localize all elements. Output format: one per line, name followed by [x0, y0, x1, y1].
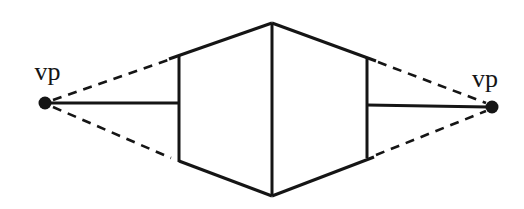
- horizon-line-right: [367, 105, 488, 107]
- box-bottom-right-edge: [272, 157, 374, 196]
- vp-right-label: vp: [472, 64, 498, 93]
- box-top-right-edge: [272, 23, 376, 61]
- guide-right-bottom: [376, 111, 486, 155]
- guide-right-top: [378, 62, 486, 103]
- box-bottom-left-edge: [179, 161, 272, 196]
- vp-right-dot: [486, 101, 499, 114]
- figure-two-point-perspective: vpvp: [0, 0, 524, 209]
- guide-left-bottom: [53, 107, 171, 158]
- vp-left-dot: [39, 97, 52, 110]
- guide-left-top: [53, 58, 174, 100]
- vp-left-label: vp: [35, 57, 61, 86]
- box-top-left-edge: [169, 23, 272, 59]
- perspective-diagram-svg: vpvp: [0, 0, 524, 209]
